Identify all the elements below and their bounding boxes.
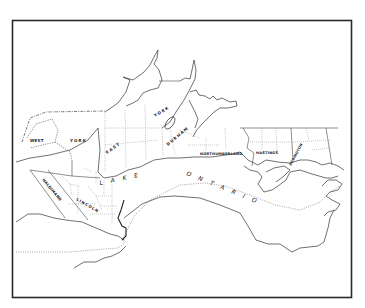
map-frame: [13, 21, 352, 298]
label-hastings: HASTINGS: [256, 151, 279, 155]
label-west: WEST: [30, 138, 44, 143]
label-northumberland: NORTHUMBERLAND: [200, 152, 242, 156]
historical-map: WEST YORK EAST YORK DURHAM NORTHUMBERLAN…: [0, 0, 365, 308]
label-york-west: YORK: [69, 138, 87, 143]
